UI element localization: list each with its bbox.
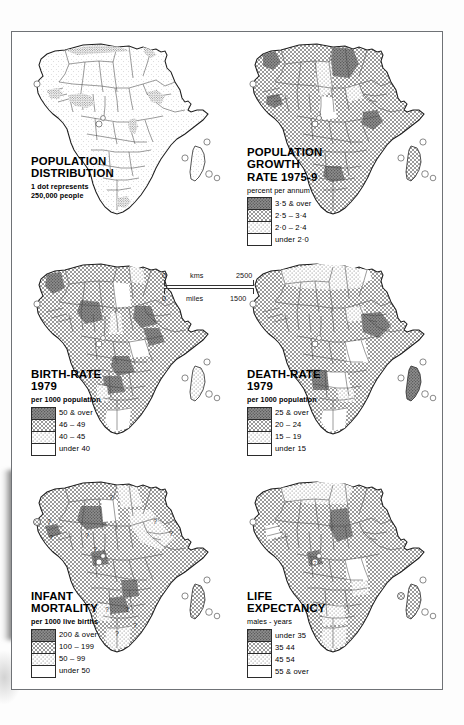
legend-key-row: under 15	[248, 444, 271, 455]
no-data-marker: ?	[125, 606, 129, 613]
map-panel-infant-mortality[interactable]: ? ? ? ? ? ? ? ? ? ? ?	[12, 474, 228, 693]
island-marker-sao-tome: ?	[312, 559, 318, 566]
legend-key-label: under 15	[275, 443, 306, 454]
legend-key-label: under 2·0	[275, 234, 309, 245]
scale-miles-start: 0	[162, 294, 166, 303]
panel-title-line2: DISTRIBUTION	[31, 167, 114, 179]
legend-key-label: under 35	[275, 630, 306, 641]
legend-key-label: 55 & over	[275, 666, 309, 677]
svg-text:?: ?	[314, 560, 317, 566]
legend-key-row: under 2·0	[248, 234, 271, 245]
legend-key-label: 46 – 49	[59, 419, 85, 430]
legend-key-swatches: 3·5 & over 2·5 – 3·4 2·0 – 2·4 under 2·0	[247, 197, 272, 246]
legend-key-label: 40 – 45	[59, 431, 85, 442]
scale-miles-unit: miles	[186, 294, 203, 303]
island-marker-mauritius	[398, 593, 405, 600]
scale-kms-end: 2500	[236, 271, 252, 280]
panel-title-line1: LIFE	[247, 590, 326, 602]
panel-title-line1: DEATH-RATE	[247, 368, 321, 380]
legend-life-expectancy: LIFE EXPECTANCY males - years under 35 3…	[247, 590, 326, 678]
panel-title-line1: POPULATION	[247, 146, 322, 158]
no-data-marker: ?	[153, 518, 157, 525]
legend-population-growth-rate: POPULATION GROWTH RATE 1975-9 percent pe…	[247, 146, 322, 246]
map-panel-population-distribution[interactable]: POPULATION DISTRIBUTION 1 dot represents…	[12, 32, 228, 251]
legend-key-label: 20 – 24	[275, 419, 301, 430]
legend-key-row: 3·5 & over	[248, 198, 271, 210]
no-data-marker: ?	[49, 534, 53, 541]
legend-key-label: 50 – 99	[59, 653, 85, 664]
no-data-marker: ?	[47, 518, 51, 525]
legend-population-distribution: POPULATION DISTRIBUTION 1 dot represents…	[31, 155, 114, 200]
legend-key-label: 100 – 199	[59, 641, 94, 652]
legend-key-swatches: 200 & over 100 – 199 50 – 99 under 50	[31, 629, 56, 678]
map-panel-population-growth-rate[interactable]: POPULATION GROWTH RATE 1975-9 percent pe…	[228, 32, 444, 251]
scanned-atlas-page: POPULATION DISTRIBUTION 1 dot represents…	[0, 0, 464, 725]
scale-rule-miles	[162, 287, 282, 293]
island-marker-cape-verde	[34, 519, 41, 526]
panel-title-line3: RATE 1975-9	[247, 171, 322, 183]
legend-key-row: 55 & over	[248, 666, 271, 677]
no-data-marker: ?	[133, 622, 137, 629]
legend-key-row: 20 – 24	[248, 420, 271, 432]
panel-title-line1: BIRTH-RATE	[31, 368, 101, 380]
panel-title-line2: EXPECTANCY	[247, 602, 326, 614]
scale-miles-end: 1500	[230, 294, 246, 303]
legend-key-swatches: 50 & over 46 – 49 40 – 45 under 40	[31, 407, 56, 456]
legend-key-row: under 50	[32, 666, 55, 677]
legend-key-row: 46 – 49	[32, 420, 55, 432]
legend-death-rate: DEATH-RATE 1979 per 1000 population 25 &…	[247, 368, 321, 456]
legend-key-row: 100 – 199	[32, 642, 55, 654]
panel-title-line2: MORTALITY	[31, 602, 98, 614]
scale-kms-unit: kms	[190, 271, 203, 280]
no-data-marker: ?	[105, 606, 109, 613]
legend-key-row: 15 – 19	[248, 432, 271, 444]
legend-birth-rate: BIRTH-RATE 1979 per 1000 population 50 &…	[31, 368, 101, 456]
legend-key-label: under 50	[59, 665, 90, 676]
legend-subtitle-line2: 250,000 people	[31, 191, 114, 200]
scale-miles: 0 miles 1500	[162, 294, 282, 303]
map-canvas	[12, 32, 228, 251]
no-data-marker: ?	[93, 546, 97, 553]
legend-key-swatches: under 35 35 44 45 54 55 & over	[247, 629, 272, 678]
legend-key-row: 25 & over	[248, 408, 271, 420]
legend-subtitle-line1: 1 dot represents	[31, 182, 114, 191]
legend-key-swatches: 25 & over 20 – 24 15 – 19 under 15	[247, 407, 272, 456]
legend-key-label: under 40	[59, 443, 90, 454]
legend-key-row: under 35	[248, 630, 271, 642]
distance-scale-bar: 0 kms 2500 0 miles 1500	[162, 271, 282, 303]
no-data-marker: ?	[85, 532, 89, 539]
legend-key-row: 40 – 45	[32, 432, 55, 444]
legend-key-row: 2·0 – 2·4	[248, 222, 271, 234]
panel-title-line2: 1979	[31, 380, 101, 392]
scale-kms-start: 0	[162, 271, 166, 280]
panel-title-line2: 1979	[247, 380, 321, 392]
legend-key-label: 200 & over	[59, 629, 97, 640]
no-data-marker: ?	[169, 530, 173, 537]
legend-key-label: 2·5 – 3·4	[275, 210, 307, 221]
legend-key-row: 2·5 – 3·4	[248, 210, 271, 222]
scale-kms: 0 kms 2500	[162, 271, 282, 280]
scale-rule-kms	[162, 280, 282, 287]
legend-key-row: 200 & over	[32, 630, 55, 642]
legend-key-label: 45 54	[275, 654, 295, 665]
legend-key-row: 50 & over	[32, 408, 55, 420]
legend-units: percent per annum	[247, 186, 322, 195]
legend-key-row: 45 54	[248, 654, 271, 666]
legend-key-label: 2·0 – 2·4	[275, 222, 307, 233]
panel-title-line2: GROWTH	[247, 158, 322, 170]
legend-key-row: 35 44	[248, 642, 271, 654]
legend-key-label: 25 & over	[275, 407, 309, 418]
panel-title-line1: INFANT	[31, 590, 98, 602]
page-frame-border: POPULATION DISTRIBUTION 1 dot represents…	[11, 31, 443, 690]
legend-units: per 1000 population	[31, 395, 101, 404]
legend-key-row: under 40	[32, 444, 55, 455]
map-panel-life-expectancy[interactable]: ? LIFE EXPECTANCY males - years under 35…	[228, 474, 444, 693]
legend-key-label: 35 44	[275, 642, 295, 653]
legend-units: males - years	[247, 617, 326, 626]
panel-title-line1: POPULATION	[31, 155, 114, 167]
legend-key-row: 50 – 99	[32, 654, 55, 666]
legend-units: per 1000 live births	[31, 617, 98, 626]
legend-units: per 1000 population	[247, 395, 321, 404]
legend-infant-mortality: INFANT MORTALITY per 1000 live births 20…	[31, 590, 98, 678]
no-data-marker: ?	[109, 494, 113, 501]
